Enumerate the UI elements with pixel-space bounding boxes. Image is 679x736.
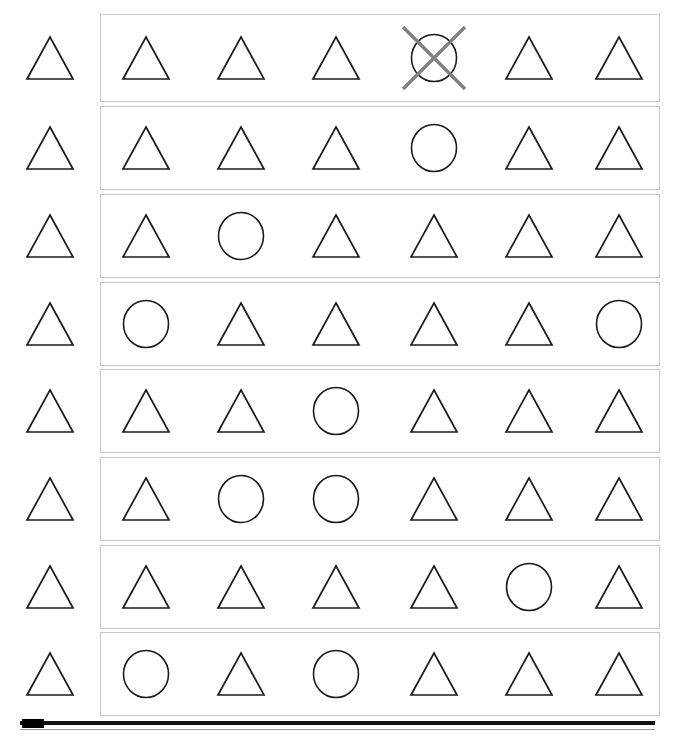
cue-shape-row-3: [0, 194, 100, 278]
shape-cell-r4-c2[interactable]: [212, 295, 270, 353]
shape-row-6[interactable]: [100, 457, 660, 541]
cue-shape-row-8: [0, 632, 100, 716]
horizontal-scrollbar-thumb[interactable]: [22, 719, 44, 728]
shape-cell-r8-c4[interactable]: [405, 645, 463, 703]
triangle-shape: [506, 37, 552, 79]
shape-row-2[interactable]: [100, 106, 660, 190]
triangle-shape: [218, 390, 264, 432]
triangle-shape: [596, 653, 642, 695]
shape-cell-r6-c4[interactable]: [405, 470, 463, 528]
triangle-shape: [313, 127, 359, 169]
shape-cell-r5-c1[interactable]: [117, 382, 175, 440]
circle-shape: [124, 301, 169, 348]
shape-cell-r2-c3[interactable]: [307, 119, 365, 177]
shape-cell-r7-c4[interactable]: [405, 558, 463, 616]
triangle-shape: [27, 390, 73, 432]
shape-cell-r6-c1[interactable]: [117, 470, 175, 528]
cue-column: [0, 0, 100, 736]
shape-cell-r6-c3[interactable]: [307, 470, 365, 528]
triangle-shape: [411, 303, 457, 345]
shape-cell-r4-c1[interactable]: [117, 295, 175, 353]
triangle-shape: [123, 215, 169, 257]
shape-cell-r2-c6[interactable]: [590, 119, 648, 177]
circle-shape: [219, 476, 264, 523]
shape-row-5[interactable]: [100, 369, 660, 453]
circle-shape: [597, 301, 642, 348]
cue-shape-row-5: [0, 369, 100, 453]
shape-cell-r7-c1[interactable]: [117, 558, 175, 616]
shape-cell-r4-c5[interactable]: [500, 295, 558, 353]
triangle-shape: [123, 478, 169, 520]
shape-cell-r8-c2[interactable]: [212, 645, 270, 703]
triangle-shape: [411, 390, 457, 432]
shape-cell-r8-c6[interactable]: [590, 645, 648, 703]
shape-cell-r2-c2[interactable]: [212, 119, 270, 177]
shape-cell-r8-c1[interactable]: [117, 645, 175, 703]
shape-cell-r5-c3[interactable]: [307, 382, 365, 440]
shape-cell-r6-c6[interactable]: [590, 470, 648, 528]
shape-cell-r7-c2[interactable]: [212, 558, 270, 616]
shape-row-3[interactable]: [100, 194, 660, 278]
triangle-shape: [27, 37, 73, 79]
circle-shape: [314, 651, 359, 698]
shape-cell-r1-c2[interactable]: [212, 29, 270, 87]
triangle-shape: [218, 127, 264, 169]
shape-cell-r8-c5[interactable]: [500, 645, 558, 703]
shape-cell-r1-c6[interactable]: [590, 29, 648, 87]
triangle-shape: [218, 37, 264, 79]
shape-cell-r4-c3[interactable]: [307, 295, 365, 353]
triangle-shape: [27, 653, 73, 695]
triangle-shape: [27, 566, 73, 608]
shape-cell-r7-c5[interactable]: [500, 558, 558, 616]
shape-cell-r1-c5[interactable]: [500, 29, 558, 87]
shape-cell-r1-c3[interactable]: [307, 29, 365, 87]
triangle-shape: [27, 303, 73, 345]
task-canvas: [0, 0, 679, 736]
triangle-shape: [411, 215, 457, 257]
circle-shape: [124, 651, 169, 698]
shape-cell-r2-c4[interactable]: [405, 119, 463, 177]
shape-cell-r2-c5[interactable]: [500, 119, 558, 177]
shape-cell-r7-c3[interactable]: [307, 558, 365, 616]
shape-cell-r7-c6[interactable]: [590, 558, 648, 616]
shape-cell-r4-c4[interactable]: [405, 295, 463, 353]
triangle-shape: [596, 566, 642, 608]
shape-cell-r4-c6[interactable]: [590, 295, 648, 353]
triangle-shape: [506, 390, 552, 432]
shape-row-8[interactable]: [100, 632, 660, 716]
circle-shape: [314, 476, 359, 523]
shape-cell-r5-c2[interactable]: [212, 382, 270, 440]
cue-shape-row-4: [0, 282, 100, 366]
shape-cell-r3-c5[interactable]: [500, 207, 558, 265]
shape-row-4[interactable]: [100, 282, 660, 366]
shape-cell-r3-c2[interactable]: [212, 207, 270, 265]
shape-cell-r8-c3[interactable]: [307, 645, 365, 703]
shape-cell-r3-c3[interactable]: [307, 207, 365, 265]
shape-cell-r6-c2[interactable]: [212, 470, 270, 528]
shape-cell-r3-c1[interactable]: [117, 207, 175, 265]
shape-row-1[interactable]: [100, 14, 660, 102]
shape-cell-r3-c6[interactable]: [590, 207, 648, 265]
shape-cell-r2-c1[interactable]: [117, 119, 175, 177]
shape-row-inner: [101, 195, 659, 277]
triangle-shape: [596, 127, 642, 169]
shape-cell-r5-c5[interactable]: [500, 382, 558, 440]
shape-cell-r5-c4[interactable]: [405, 382, 463, 440]
shape-cell-r1-c4-crossed[interactable]: [405, 29, 463, 87]
triangle-shape: [596, 478, 642, 520]
shape-row-7[interactable]: [100, 545, 660, 629]
shape-row-inner: [101, 107, 659, 189]
triangle-shape: [596, 37, 642, 79]
shape-cell-r1-c1[interactable]: [117, 29, 175, 87]
triangle-shape: [506, 478, 552, 520]
horizontal-scrollbar-rule: [20, 721, 655, 725]
shape-cell-r3-c4[interactable]: [405, 207, 463, 265]
cue-shape-row-6: [0, 457, 100, 541]
triangle-shape: [123, 37, 169, 79]
cue-shape-row-2: [0, 106, 100, 190]
triangle-shape: [123, 127, 169, 169]
shape-cell-r6-c5[interactable]: [500, 470, 558, 528]
triangle-shape: [596, 215, 642, 257]
triangle-shape: [411, 653, 457, 695]
shape-cell-r5-c6[interactable]: [590, 382, 648, 440]
